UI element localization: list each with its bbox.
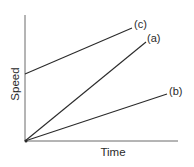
speed-time-chart: (c) (a) (b) Time Speed: [0, 0, 194, 167]
origin-point: [25, 140, 28, 143]
label-c: (c): [134, 18, 147, 30]
line-a: [25, 42, 146, 141]
line-b: [25, 94, 167, 141]
label-b: (b): [169, 85, 182, 97]
x-axis-label: Time: [100, 146, 125, 158]
y-axis-label: Speed: [9, 67, 21, 100]
label-a: (a): [147, 32, 160, 44]
